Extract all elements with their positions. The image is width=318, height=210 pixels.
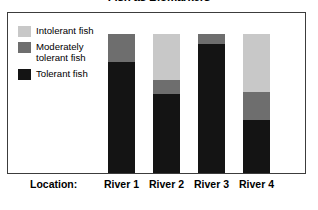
bar-column	[243, 34, 270, 173]
bars-layer	[7, 12, 306, 174]
bar-segment	[198, 44, 225, 173]
fish-as-biomarkers-chart: Fish as Biomarkers Intolerant fish Moder…	[0, 0, 318, 210]
bar-segment	[153, 80, 180, 94]
bar-column	[153, 34, 180, 173]
bar-segment	[153, 94, 180, 173]
x-axis: Location: River 1River 2River 3River 4	[7, 176, 306, 198]
bar-column	[198, 34, 225, 173]
bar-segment	[153, 34, 180, 80]
bar-segment	[243, 120, 270, 173]
bar-segment	[108, 62, 135, 173]
bar-column	[108, 34, 135, 173]
x-tick-label: River 4	[229, 178, 285, 190]
bar-segment	[198, 34, 225, 44]
x-axis-title: Location:	[30, 178, 77, 190]
bar-segment	[108, 34, 135, 62]
chart-title: Fish as Biomarkers	[0, 0, 318, 3]
bar-segment	[243, 34, 270, 92]
bar-segment	[243, 92, 270, 120]
